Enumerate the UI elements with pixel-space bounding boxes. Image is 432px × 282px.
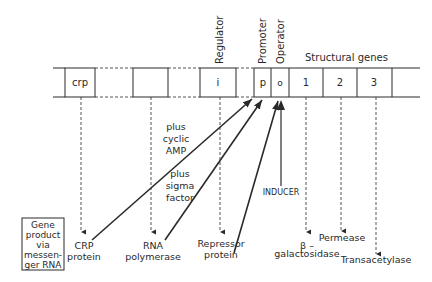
rna-polymerase-label: RNA polymerase: [125, 240, 181, 262]
svg-text:CRP: CRP: [75, 240, 94, 251]
svg-text:factor: factor: [166, 192, 194, 203]
lac-operon-diagram: Regulator Promoter Operator Structural g…: [0, 0, 432, 282]
regulator-label: Regulator: [214, 15, 225, 64]
gene-box-promoter-label: p: [260, 77, 266, 88]
gene-box-promoter: p: [254, 68, 266, 97]
gene-box-regulator: i: [200, 68, 236, 97]
svg-text:protein: protein: [67, 251, 101, 262]
svg-text:ger RNA: ger RNA: [25, 260, 63, 270]
structural-genes-label: Structural genes: [305, 52, 388, 63]
gene-box-1: 1: [289, 68, 309, 97]
svg-text:plus: plus: [170, 168, 190, 179]
operator-label: Operator: [275, 18, 286, 64]
gene-box-regulator-label: i: [217, 77, 220, 88]
crp-protein-label: CRP protein: [67, 240, 101, 262]
svg-text:sigma: sigma: [166, 180, 195, 191]
promoter-label: Promoter: [257, 17, 268, 64]
svg-text:polymerase: polymerase: [125, 251, 181, 262]
gene-box-operator: o: [271, 68, 283, 97]
gene-box-1-label: 1: [303, 77, 309, 88]
permease-label: Permease: [319, 232, 366, 243]
svg-text:Gene: Gene: [31, 220, 55, 230]
transacetylase-label: Transacetylase: [340, 254, 412, 265]
gene-product-legend: Gene product via messen- ger RNA: [22, 218, 64, 270]
svg-text:cyclic: cyclic: [163, 133, 190, 144]
svg-text:Repressor: Repressor: [197, 238, 244, 249]
plus-sigma-factor-annotation: plus sigma factor: [166, 168, 195, 203]
svg-text:AMP: AMP: [166, 145, 187, 156]
svg-text:messen-: messen-: [24, 250, 62, 260]
svg-text:via: via: [36, 240, 49, 250]
repressor-protein-label: Repressor protein: [197, 238, 244, 260]
gene-box-rna-polymerase: [133, 68, 168, 97]
inducer-label: INDUCER: [263, 188, 300, 197]
svg-text:product: product: [26, 230, 61, 240]
plus-cyclic-amp-annotation: plus cyclic AMP: [163, 121, 190, 156]
svg-text:protein: protein: [204, 249, 238, 260]
gene-box-3-label: 3: [371, 77, 377, 88]
svg-text:galactosidase: galactosidase: [274, 248, 339, 259]
gene-box-2-label: 2: [337, 77, 343, 88]
gene-box-crp: crp: [65, 68, 95, 97]
gene-box-2: 2: [323, 68, 343, 97]
gene-box-operator-label: o: [277, 78, 283, 88]
repressor-binding-arrow: [234, 101, 278, 253]
gene-box-crp-label: crp: [72, 77, 88, 88]
gene-box-3: 3: [357, 68, 377, 97]
svg-text:RNA: RNA: [143, 240, 164, 251]
svg-text:plus: plus: [166, 121, 186, 132]
